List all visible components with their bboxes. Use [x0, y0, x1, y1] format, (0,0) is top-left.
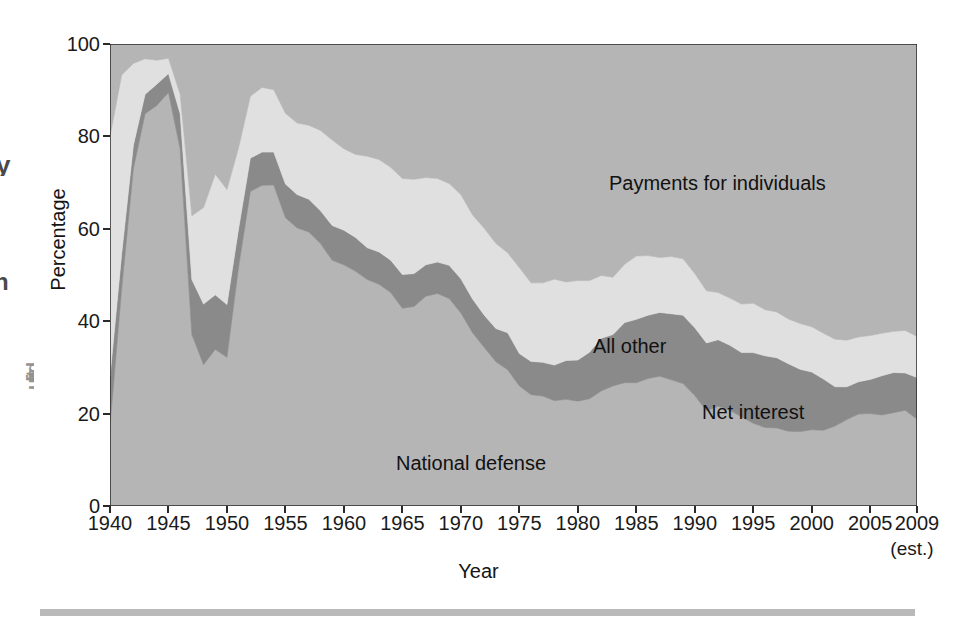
payments-for-individuals-label: Payments for individuals	[609, 172, 826, 194]
y-tick-label: 100	[58, 34, 100, 54]
x-tick-label: 1990	[668, 512, 722, 534]
y-tick-label: 80	[58, 126, 100, 146]
all-other-label: All other	[593, 335, 666, 357]
area-series-group	[110, 44, 917, 506]
y-tick-label: 60	[58, 219, 100, 239]
x-tick-mark	[518, 506, 520, 513]
footer-rule	[40, 609, 915, 616]
x-tick-mark	[109, 506, 111, 513]
y-tick-mark	[103, 228, 110, 230]
x-tick-mark	[226, 506, 228, 513]
x-tick-mark	[167, 506, 169, 513]
x-tick-mark	[752, 506, 754, 513]
x-tick-label: 1965	[375, 512, 429, 534]
national-defense-label: National defense	[396, 452, 546, 474]
x-tick-mark	[916, 506, 918, 513]
stacked-area-chart	[110, 44, 917, 506]
x-tick-mark	[460, 506, 462, 513]
y-tick-mark	[103, 135, 110, 137]
y-tick-label: 40	[58, 311, 100, 331]
x-tick-label: 1960	[317, 512, 371, 534]
x-tick-label: 1950	[200, 512, 254, 534]
net-interest-label: Net interest	[702, 401, 804, 423]
margin-glyph-fragment-vertical: ulitd	[22, 240, 34, 390]
x-tick-mark	[401, 506, 403, 513]
x-tick-mark	[577, 506, 579, 513]
x-tick-label: 2000	[785, 512, 839, 534]
x-tick-label: 1970	[434, 512, 488, 534]
x-tick-label: 1955	[258, 512, 312, 534]
x-tick-label: 1940	[83, 512, 137, 534]
x-tick-label: 1945	[141, 512, 195, 534]
y-tick-mark	[103, 43, 110, 45]
figure-canvas: y n ulitd Percentage 020406080100 Paymen…	[0, 0, 957, 623]
x-axis-estimate-note: (est.)	[877, 538, 947, 560]
y-tick-mark	[103, 320, 110, 322]
x-tick-mark	[694, 506, 696, 513]
x-tick-mark	[811, 506, 813, 513]
x-axis-title: Year	[0, 560, 957, 583]
margin-glyph-fragment-lower: n	[0, 268, 8, 292]
x-tick-label: 1995	[726, 512, 780, 534]
x-tick-label: 1980	[551, 512, 605, 534]
x-tick-label: 1975	[492, 512, 546, 534]
margin-glyph-fragment-upper: y	[0, 150, 12, 176]
plot-area: Payments for individuals All other Net i…	[110, 44, 917, 506]
x-tick-label: 2009	[890, 512, 944, 534]
x-tick-mark	[284, 506, 286, 513]
x-tick-mark	[343, 506, 345, 513]
y-tick-label: 20	[58, 404, 100, 424]
x-tick-mark	[869, 506, 871, 513]
x-tick-mark	[635, 506, 637, 513]
y-tick-mark	[103, 413, 110, 415]
x-tick-label: 1985	[609, 512, 663, 534]
